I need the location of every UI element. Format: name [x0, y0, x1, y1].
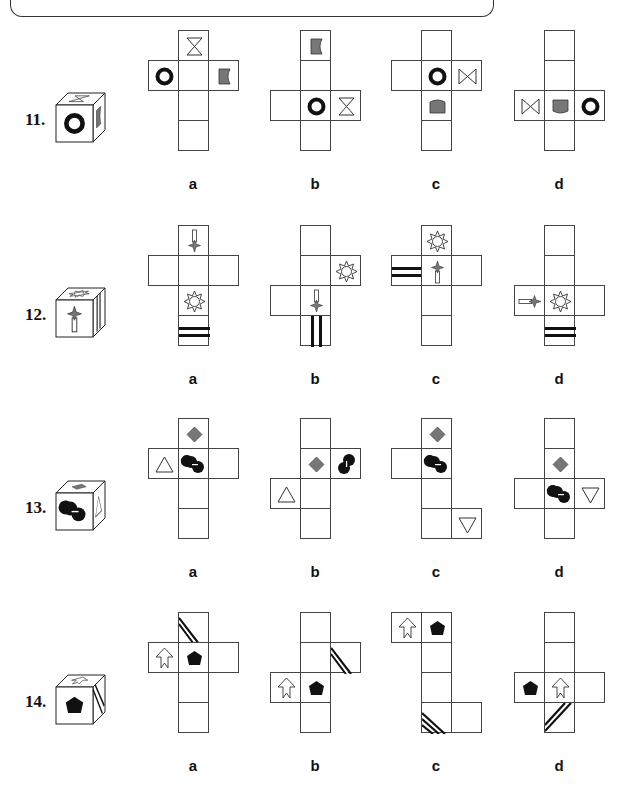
diamond-icon: [544, 448, 575, 479]
blank-face: [574, 672, 605, 703]
ring-icon: [148, 60, 179, 91]
starDown-icon: [300, 285, 331, 316]
option-label[interactable]: a: [183, 175, 203, 192]
cupL-icon: [300, 30, 331, 61]
blank-face: [421, 672, 452, 703]
triDown-icon: [574, 478, 605, 509]
diamond-icon: [300, 448, 331, 479]
blank-face: [300, 642, 331, 673]
option-label[interactable]: b: [305, 175, 325, 192]
blank-face: [178, 478, 209, 509]
arrowUp-icon: [270, 672, 301, 703]
hourglass-icon: [178, 30, 209, 61]
option-label[interactable]: c: [426, 757, 446, 774]
blank-face: [421, 478, 452, 509]
blank-face: [544, 255, 575, 286]
circlesH-icon: [544, 478, 575, 509]
cube-figure: [55, 480, 107, 536]
instruction-box: [10, 0, 494, 17]
blank-face: [300, 612, 331, 643]
option-label[interactable]: a: [183, 563, 203, 580]
arrowUp-icon: [148, 642, 179, 673]
option-label[interactable]: c: [426, 175, 446, 192]
blank-face: [391, 448, 422, 479]
triUp-icon: [148, 448, 179, 479]
cupU-icon: [421, 90, 452, 121]
blank-face: [208, 255, 239, 286]
blank-face: [544, 642, 575, 673]
stripesV-icon: [300, 315, 331, 346]
diagTL-icon: [330, 642, 361, 673]
diamond-icon: [178, 418, 209, 449]
blank-face: [300, 478, 331, 509]
option-label[interactable]: d: [549, 370, 569, 387]
pent-icon: [300, 672, 331, 703]
blank-face: [421, 642, 452, 673]
blank-face: [208, 448, 239, 479]
option-label[interactable]: d: [549, 563, 569, 580]
stripesH-icon: [544, 315, 575, 346]
cube-figure: [55, 674, 107, 730]
option-label[interactable]: d: [549, 757, 569, 774]
diamond-icon: [421, 418, 452, 449]
sun-icon: [178, 285, 209, 316]
option-label[interactable]: c: [426, 370, 446, 387]
blank-face: [300, 120, 331, 151]
starUp-icon: [421, 255, 452, 286]
ring-icon: [300, 90, 331, 121]
blank-face: [178, 120, 209, 151]
circlesV-icon: [330, 448, 361, 479]
question-number: 12.: [25, 305, 46, 325]
ring-icon: [574, 90, 605, 121]
cupL-icon: [208, 60, 239, 91]
blank-face: [178, 255, 209, 286]
diagBLup-icon: [544, 702, 575, 733]
blank-face: [451, 702, 482, 733]
blank-face: [178, 60, 209, 91]
blank-face: [300, 255, 331, 286]
blank-face: [421, 508, 452, 539]
option-label[interactable]: b: [305, 757, 325, 774]
option-label[interactable]: b: [305, 370, 325, 387]
starRight-icon: [514, 285, 545, 316]
blank-face: [544, 60, 575, 91]
arrowUp-icon: [391, 612, 422, 643]
blank-face: [574, 285, 605, 316]
blank-face: [208, 642, 239, 673]
blank-face: [544, 120, 575, 151]
ring-icon: [421, 60, 452, 91]
blank-face: [544, 418, 575, 449]
option-label[interactable]: a: [183, 757, 203, 774]
blank-face: [421, 315, 452, 346]
triUp-icon: [270, 478, 301, 509]
blank-face: [300, 225, 331, 256]
blank-face: [300, 418, 331, 449]
option-label[interactable]: d: [549, 175, 569, 192]
pent-icon: [178, 642, 209, 673]
option-label[interactable]: a: [183, 370, 203, 387]
blank-face: [421, 120, 452, 151]
blank-face: [544, 30, 575, 61]
blank-face: [544, 508, 575, 539]
starDown-icon: [178, 225, 209, 256]
bowtie-icon: [514, 90, 545, 121]
option-label[interactable]: b: [305, 563, 325, 580]
blank-face: [421, 30, 452, 61]
blank-face: [300, 702, 331, 733]
pent-icon: [514, 672, 545, 703]
option-label[interactable]: c: [426, 563, 446, 580]
blank-face: [300, 508, 331, 539]
blank-face: [300, 60, 331, 91]
arrowUp-icon: [544, 672, 575, 703]
sun-icon: [544, 285, 575, 316]
blank-face: [391, 60, 422, 91]
triDown-icon: [451, 508, 482, 539]
blank-face: [514, 478, 545, 509]
pent-icon: [421, 612, 452, 643]
question-number: 11.: [25, 110, 45, 130]
cube-figure: [55, 287, 107, 343]
question-number: 14.: [25, 692, 46, 712]
blank-face: [270, 285, 301, 316]
blank-face: [178, 90, 209, 121]
blank-face: [148, 255, 179, 286]
